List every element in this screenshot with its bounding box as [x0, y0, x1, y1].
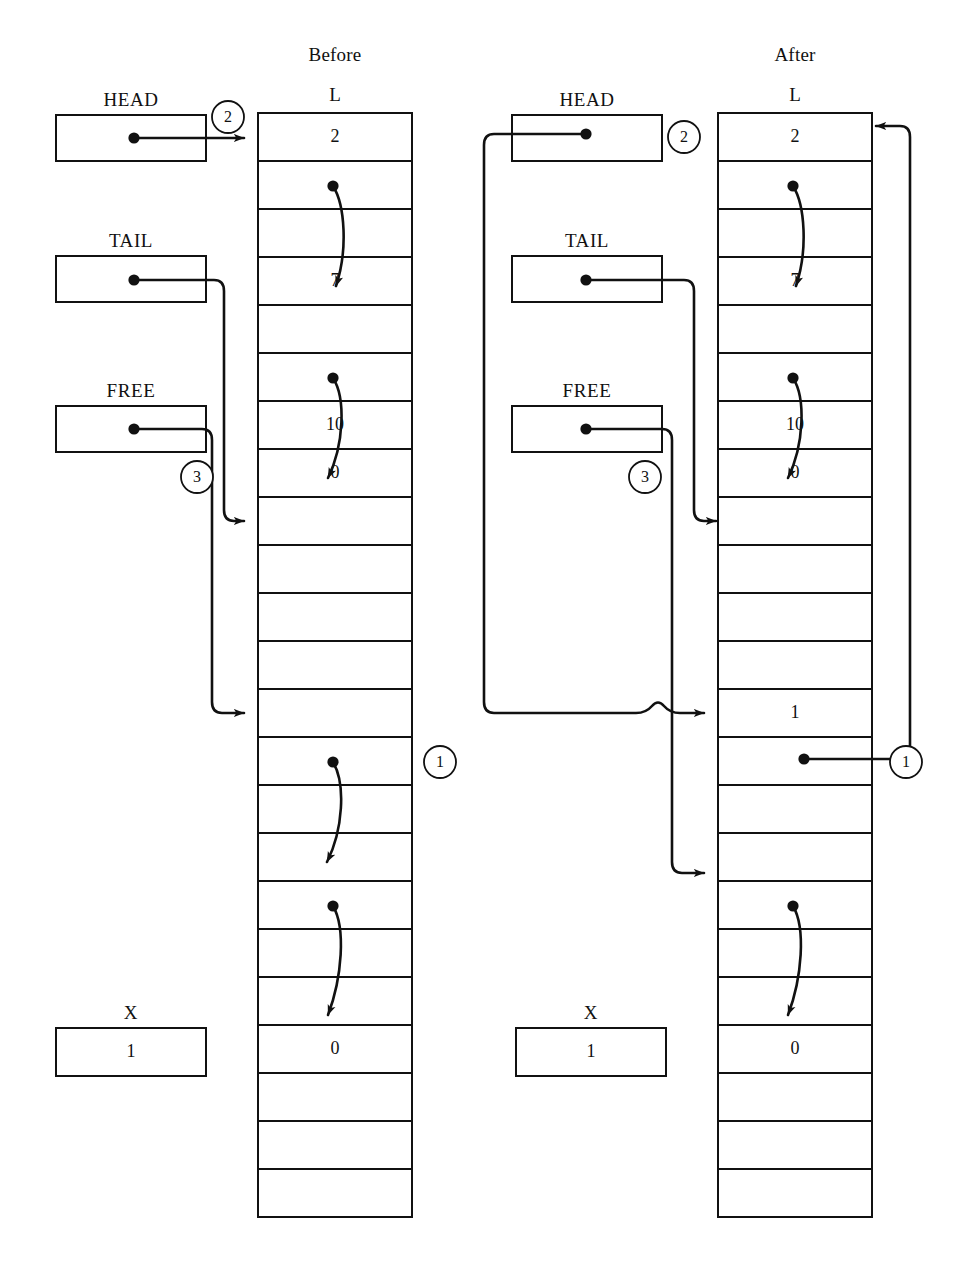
figure-canvas: 2710002710010HEADTAILFREEX1HEADTAILFREEX…: [0, 0, 976, 1267]
next-link-dot-before-b: [327, 372, 338, 383]
variable-label-after-x: X: [516, 1002, 666, 1024]
array-cell-before-7: 0: [258, 462, 412, 483]
free-pointer-dot-after: [580, 423, 591, 434]
step-marker-before-3: 3: [181, 469, 213, 485]
free-pointer-line-after: [586, 429, 704, 873]
pointer-label-before-tail: TAIL: [56, 230, 206, 252]
next-link-dot-before-a: [327, 180, 338, 191]
next-link-dot-after-b: [787, 372, 798, 383]
linked-list-diagram: [0, 0, 976, 1267]
step-marker-before-1: 1: [424, 754, 456, 770]
pointer-boxes: [56, 115, 666, 1076]
tail-pointer-dot-after: [580, 274, 591, 285]
head-pointer-dot-after: [580, 128, 591, 139]
before-links: [128, 132, 343, 1015]
array-cell-after-19: 0: [718, 1038, 872, 1059]
next-link-dot-before-c: [327, 756, 338, 767]
array-cell-before-3: 7: [258, 270, 412, 291]
next-link-before-d: [328, 906, 341, 1015]
new-node-next-dot-after: [798, 753, 809, 764]
step-markers: [181, 101, 922, 778]
array-cell-after-12: 1: [718, 702, 872, 723]
next-link-after-c: [788, 906, 801, 1015]
array-cell-after-3: 7: [718, 270, 872, 291]
array-label-after: L: [718, 84, 872, 106]
head-pointer-dot-before: [128, 132, 139, 143]
pointer-label-after-tail: TAIL: [512, 230, 662, 252]
next-link-dot-after-c: [787, 900, 798, 911]
array-cell-after-6: 10: [718, 414, 872, 435]
next-link-dot-before-d: [327, 900, 338, 911]
variable-value-after-x: 1: [516, 1041, 666, 1062]
pointer-label-before-head: HEAD: [56, 89, 206, 111]
caption-after: After: [718, 44, 872, 66]
variable-value-before-x: 1: [56, 1041, 206, 1062]
tail-pointer-dot-before: [128, 274, 139, 285]
step-marker-after-3: 3: [629, 469, 661, 485]
next-link-dot-after-a: [787, 180, 798, 191]
array-cell-after-0: 2: [718, 126, 872, 147]
free-pointer-dot-before: [128, 423, 139, 434]
array-cell-before-0: 2: [258, 126, 412, 147]
array-cell-before-19: 0: [258, 1038, 412, 1059]
step-marker-before-2: 2: [212, 109, 244, 125]
array-label-before: L: [258, 84, 412, 106]
variable-label-before-x: X: [56, 1002, 206, 1024]
array-cell-after-7: 0: [718, 462, 872, 483]
next-link-before-c: [327, 762, 341, 862]
caption-before: Before: [258, 44, 412, 66]
step-marker-after-2: 2: [668, 129, 700, 145]
array-cell-before-6: 10: [258, 414, 412, 435]
step-marker-after-1: 1: [890, 754, 922, 770]
pointer-label-after-free: FREE: [512, 380, 662, 402]
pointer-label-before-free: FREE: [56, 380, 206, 402]
new-node-next-link-after: [804, 126, 910, 759]
pointer-label-after-head: HEAD: [512, 89, 662, 111]
